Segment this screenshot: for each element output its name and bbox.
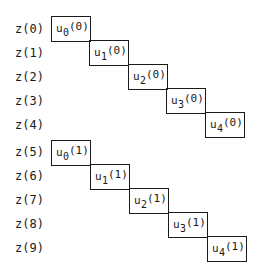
cell-u1-0: u 1 (0)	[89, 40, 129, 66]
cell-u0-1: u 0 (1)	[51, 140, 91, 166]
cell-u1-1: u 1 (1)	[90, 164, 130, 190]
row-label-z6: z(6)	[15, 169, 44, 183]
row-label-z2: z(2)	[15, 70, 44, 84]
row-label-z4: z(4)	[15, 118, 44, 132]
cell-u3-1: u 3 (1)	[168, 212, 208, 238]
cell-u4-1: u 4 (1)	[207, 236, 247, 262]
cell-u2-1: u 2 (1)	[129, 188, 169, 214]
cell-u0-0: u 0 (0)	[51, 16, 91, 42]
row-label-z9: z(9)	[15, 241, 44, 255]
cell-u2-0: u 2 (0)	[128, 64, 168, 90]
row-label-z0: z(0)	[15, 22, 44, 36]
row-label-z8: z(8)	[15, 217, 44, 231]
row-label-z7: z(7)	[15, 193, 44, 207]
row-label-z5: z(5)	[15, 145, 44, 159]
cell-u4-0: u 4 (0)	[205, 112, 245, 138]
row-label-z1: z(1)	[15, 46, 44, 60]
cell-u3-0: u 3 (0)	[166, 88, 206, 114]
row-label-z3: z(3)	[15, 94, 44, 108]
